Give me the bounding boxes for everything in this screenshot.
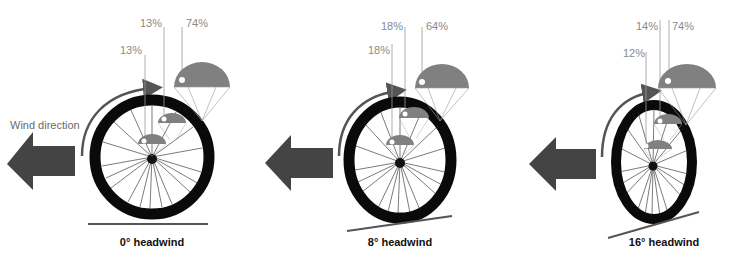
panel-caption: 16° headwind bbox=[629, 236, 699, 248]
panel-8-degree: 18% 18% 64% 8° headwind bbox=[265, 20, 469, 248]
panel-caption: 0° headwind bbox=[120, 236, 184, 248]
wind-arrow-icon bbox=[529, 137, 596, 191]
wind-arrow-icon bbox=[7, 132, 75, 190]
wheel bbox=[95, 100, 209, 214]
percentage-medium: 14% bbox=[636, 20, 658, 32]
parachute-medium-icon bbox=[654, 114, 682, 140]
percentage-small: 13% bbox=[120, 44, 142, 56]
panel-16-degree: 12% 14% 74% 16° headwind bbox=[529, 20, 716, 248]
percentage-medium: 13% bbox=[140, 17, 162, 29]
wind-arrow-icon bbox=[265, 135, 333, 191]
panel-caption: 8° headwind bbox=[368, 236, 432, 248]
headwind-diagram: Wind direction bbox=[0, 0, 731, 261]
percentage-large: 64% bbox=[426, 20, 448, 32]
percentage-medium: 18% bbox=[381, 20, 403, 32]
percentage-small: 12% bbox=[623, 47, 645, 59]
percentage-small: 18% bbox=[368, 44, 390, 56]
percentage-large: 74% bbox=[672, 20, 694, 32]
parachute-medium-icon bbox=[158, 113, 186, 140]
parachute-medium-icon bbox=[399, 107, 429, 138]
percentage-large: 74% bbox=[186, 17, 208, 29]
panel-0-degree: Wind direction bbox=[7, 17, 230, 248]
wind-direction-label: Wind direction bbox=[10, 119, 80, 131]
